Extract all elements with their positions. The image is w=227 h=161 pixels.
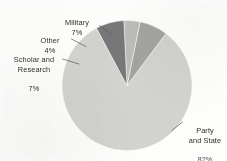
slice-label-scholar-and-research-value: 7% (6, 84, 62, 94)
slice-label-other-name: Other (41, 36, 60, 45)
pie-chart: Military 7% Other 4% Scholar and Researc… (0, 0, 227, 161)
slice-label-party-and-state: Party and State 82% (184, 116, 226, 161)
slice-label-party-and-state-name-line1: Party (196, 126, 214, 135)
slice-label-scholar-and-research: Scholar and Research 7% (6, 45, 62, 104)
slice-label-party-and-state-name-line2: and State (184, 136, 226, 146)
slice-label-scholar-and-research-name-line1: Scholar and (14, 55, 54, 64)
slice-label-party-and-state-value: 82% (184, 155, 226, 161)
slice-label-scholar-and-research-name-line2: Research (6, 65, 62, 75)
